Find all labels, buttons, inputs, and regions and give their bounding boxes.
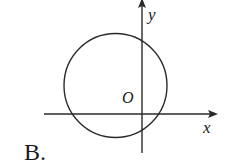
origin-label: O: [122, 90, 134, 106]
option-label: B.: [24, 140, 46, 164]
y-axis-label: y: [148, 6, 156, 23]
circle: [64, 34, 167, 138]
x-axis-label: x: [203, 119, 211, 136]
coordinate-diagram: y x O B.: [0, 0, 226, 168]
